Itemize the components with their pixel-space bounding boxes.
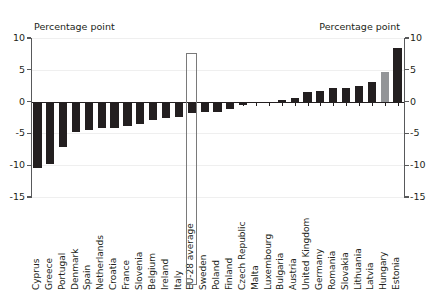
category-label: Romania	[328, 251, 337, 290]
category-label: Belgium	[148, 253, 157, 290]
category-tick	[115, 102, 116, 106]
y-tick-label: -10	[410, 160, 434, 170]
category-label: Malta	[251, 265, 260, 290]
category-tick	[192, 102, 193, 106]
bar	[33, 102, 41, 169]
category-label: France	[122, 260, 131, 290]
category-axis-labels: CyprusGreecePortugalDenmarkSpainNetherla…	[31, 199, 404, 290]
y-tick-mark	[27, 69, 31, 70]
category-label: Sweden	[199, 254, 208, 290]
category-tick	[166, 102, 167, 106]
category-tick	[320, 102, 321, 106]
category-tick	[398, 102, 399, 106]
left-axis-unit-label: Percentage point	[34, 22, 115, 32]
category-tick	[179, 102, 180, 106]
category-label: Austria	[289, 258, 298, 290]
bar	[393, 48, 401, 101]
category-label: Germany	[315, 249, 324, 290]
y-tick-mark	[27, 165, 31, 166]
bar	[316, 91, 324, 101]
category-tick	[153, 102, 154, 106]
bar	[72, 102, 80, 133]
y-tick-mark	[27, 133, 31, 134]
category-label: Italy	[174, 270, 183, 290]
category-tick	[282, 102, 283, 106]
y-tick-mark	[405, 37, 409, 38]
y-tick-label: -15	[1, 192, 25, 202]
category-label: Slovenia	[135, 252, 144, 290]
y-tick-mark	[27, 37, 31, 38]
chart-container: Percentage point Percentage point 101055…	[0, 0, 435, 290]
bar	[368, 82, 376, 102]
category-label: Poland	[212, 260, 221, 290]
y-tick-mark	[27, 101, 31, 102]
y-tick-label: 0	[410, 97, 434, 107]
category-label: Bulgaria	[276, 253, 285, 290]
category-label: Lithuania	[354, 248, 363, 290]
y-tick-label: 0	[1, 97, 25, 107]
category-tick	[127, 102, 128, 106]
bar	[303, 92, 311, 102]
bar	[381, 72, 389, 102]
category-label: Denmark	[71, 249, 80, 290]
category-tick	[37, 102, 38, 106]
y-tick-mark	[405, 165, 409, 166]
category-label: Finland	[225, 258, 234, 290]
category-tick	[89, 102, 90, 106]
category-label: EU-28 average	[186, 223, 195, 290]
y-tick-label: -5	[410, 128, 434, 138]
bar	[59, 102, 67, 147]
category-label: Greece	[45, 258, 54, 290]
category-tick	[140, 102, 141, 106]
y-tick-label: 5	[1, 65, 25, 75]
right-axis-unit-label: Percentage point	[319, 22, 400, 32]
plot-area	[31, 38, 404, 197]
category-label: Hungary	[379, 252, 388, 290]
category-label: Latvia	[366, 263, 375, 290]
bar	[46, 102, 54, 164]
category-label: Croatia	[109, 258, 118, 290]
category-tick	[269, 102, 270, 106]
bar-series	[31, 38, 404, 197]
category-tick	[76, 102, 77, 106]
category-tick	[256, 102, 257, 106]
y-tick-mark	[405, 69, 409, 70]
category-label: Ireland	[161, 259, 170, 290]
category-tick	[346, 102, 347, 106]
category-tick	[372, 102, 373, 106]
category-tick	[385, 102, 386, 106]
y-tick-label: 10	[410, 33, 434, 43]
gridline	[31, 197, 404, 198]
category-tick	[218, 102, 219, 106]
category-label: Portugal	[58, 253, 67, 290]
category-label: Netherlands	[96, 235, 105, 290]
y-tick-label: -15	[410, 192, 434, 202]
category-tick	[359, 102, 360, 106]
category-tick	[243, 102, 244, 106]
y-tick-label: 5	[410, 65, 434, 75]
category-label: Czech Republic	[238, 221, 247, 290]
y-tick-label: -5	[1, 128, 25, 138]
y-tick-mark	[27, 196, 31, 197]
bar	[98, 102, 106, 129]
bar	[329, 88, 337, 101]
category-label: Cyprus	[32, 259, 41, 290]
y-tick-label: 10	[1, 33, 25, 43]
category-tick	[295, 102, 296, 106]
y-tick-label: -10	[1, 160, 25, 170]
category-label: Spain	[83, 265, 92, 290]
category-tick	[205, 102, 206, 106]
category-tick	[50, 102, 51, 106]
category-tick	[63, 102, 64, 106]
y-axis-left	[31, 38, 32, 198]
category-tick	[230, 102, 231, 106]
y-axis-right	[404, 38, 405, 198]
y-tick-mark	[405, 196, 409, 197]
bar	[355, 86, 363, 102]
category-label: Estonia	[392, 257, 401, 290]
category-label: Slovakia	[341, 252, 350, 290]
category-tick	[102, 102, 103, 106]
y-tick-mark	[405, 101, 409, 102]
category-label: United Kingdom	[302, 218, 311, 290]
bar	[342, 88, 350, 101]
